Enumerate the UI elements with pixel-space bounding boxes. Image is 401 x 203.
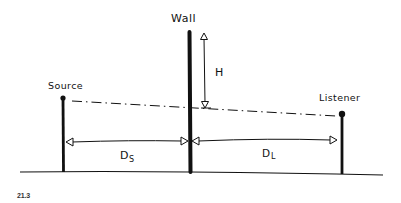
ground-line — [20, 172, 383, 176]
listener-distance-arrow — [192, 136, 337, 145]
arrow-up-icon — [201, 33, 208, 40]
height-label: H — [215, 66, 223, 79]
height-arrow — [201, 33, 212, 108]
noise-barrier-diagram: Wall H Source Listener D S D L — [0, 0, 401, 203]
wall-label: Wall — [171, 12, 196, 25]
source-label: Source — [48, 80, 83, 91]
listener-label: Listener — [319, 92, 360, 103]
arrow-right-icon — [181, 137, 188, 145]
arrow-left-icon — [66, 138, 73, 146]
arrow-down-icon — [202, 102, 209, 109]
wall-line — [190, 32, 191, 172]
source-distance-label: D — [120, 149, 128, 162]
source-distance-subscript: S — [129, 155, 134, 164]
figure-number: 21.3 — [17, 192, 30, 199]
arrow-left-icon — [192, 137, 199, 145]
arrow-right-icon — [330, 136, 337, 144]
listener-distance-label: D — [262, 147, 270, 159]
source-marker — [60, 95, 65, 172]
listener-marker — [339, 111, 345, 174]
listener-distance-subscript: L — [271, 152, 276, 161]
source-distance-arrow — [66, 137, 188, 146]
